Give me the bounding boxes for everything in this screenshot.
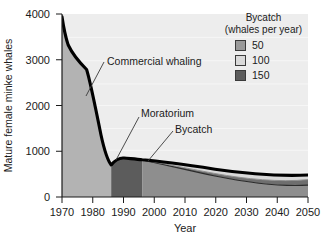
- legend-swatch-150: [235, 70, 246, 81]
- area-moratorium: [111, 158, 142, 197]
- legend-item-50[interactable]: 50: [235, 39, 316, 52]
- legend-title-line2: (whales per year): [211, 24, 316, 36]
- legend-entries: 50 100 150: [211, 39, 316, 82]
- legend-item-150[interactable]: 150: [235, 69, 316, 82]
- legend-label-50: 50: [252, 40, 264, 51]
- legend-swatch-100: [235, 55, 246, 66]
- y-tick-1000: 1000: [8, 145, 50, 157]
- y-tick-4000: 4000: [8, 8, 50, 20]
- legend-title: Bycatch (whales per year): [211, 12, 316, 36]
- legend-item-100[interactable]: 100: [235, 54, 316, 67]
- legend-swatch-50: [235, 40, 246, 51]
- y-tick-0: 0: [8, 191, 50, 203]
- annotation-commercial-whaling: Commercial whaling: [107, 55, 202, 67]
- annotation-bycatch: Bycatch: [175, 123, 212, 135]
- x-tick-2050: 2050: [288, 206, 323, 218]
- y-tick-3000: 3000: [8, 54, 50, 66]
- x-axis-title: Year: [62, 222, 308, 234]
- y-axis-ticks: [56, 14, 62, 197]
- legend-title-line1: Bycatch: [211, 12, 316, 24]
- legend-label-100: 100: [252, 55, 270, 66]
- chart-figure: Mature female minke whales 4000 3000 200…: [0, 0, 323, 242]
- annotation-moratorium: Moratorium: [141, 107, 194, 119]
- y-tick-2000: 2000: [8, 100, 50, 112]
- legend: Bycatch (whales per year) 50 100 150: [211, 12, 316, 84]
- legend-label-150: 150: [252, 70, 270, 81]
